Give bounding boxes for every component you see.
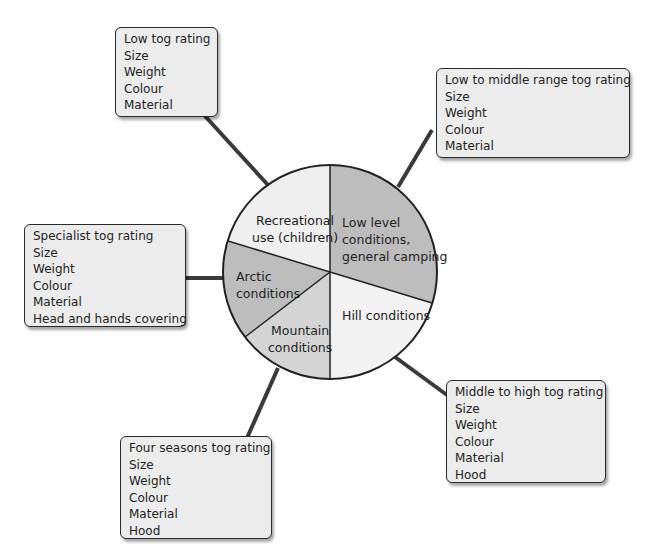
connector-recreational (205, 116, 268, 185)
segment-label-recreational: Recreational use (children) (252, 212, 338, 246)
box-low-level: Low to middle range tog rating Size Weig… (436, 68, 630, 158)
box-mountain: Four seasons tog rating Size Weight Colo… (120, 436, 272, 539)
box-recreational: Low tog rating Size Weight Colour Materi… (115, 27, 218, 117)
segment-label-mountain: Mountain conditions (268, 322, 332, 356)
connector-low-level (398, 130, 432, 187)
box-hill: Middle to high tog rating Size Weight Co… (446, 380, 606, 483)
segment-label-low-level: Low level conditions, general camping (342, 214, 447, 265)
segment-label-hill: Hill conditions (342, 307, 430, 324)
connector-mountain (247, 368, 278, 438)
connector-hill (395, 357, 447, 395)
box-arctic: Specialist tog rating Size Weight Colour… (24, 224, 186, 327)
segment-label-arctic: Arctic conditions (236, 268, 300, 302)
